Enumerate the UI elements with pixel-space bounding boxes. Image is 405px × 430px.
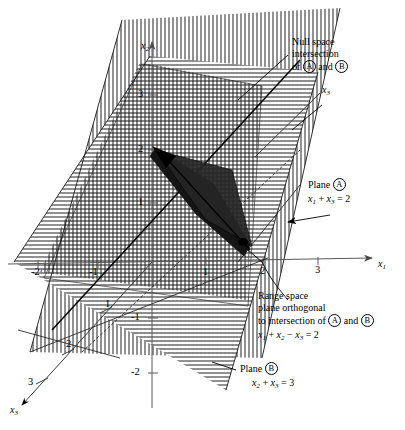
tick-x3-3: 3 bbox=[28, 376, 33, 387]
annotation-null-space: Null space intersection of A and B bbox=[292, 36, 348, 73]
figure-canvas: x2 x1 x3 x3 -2 -1 1 2 3 3 2 1 -1 -2 1 2 … bbox=[0, 0, 405, 430]
tick-x1-3: 3 bbox=[315, 264, 320, 275]
circled-label-a: A bbox=[303, 60, 316, 73]
axis-label-x2: x2 bbox=[141, 40, 149, 53]
tick-x1-neg2: -2 bbox=[31, 266, 40, 277]
tick-x1-2: 2 bbox=[260, 265, 265, 276]
annotation-plane-a: Plane A x1 + x3 = 2 bbox=[308, 178, 350, 206]
circled-label-a: A bbox=[328, 314, 341, 327]
circled-label-a: A bbox=[333, 178, 346, 191]
circled-label-b: B bbox=[361, 314, 374, 327]
tick-x3-1: 1 bbox=[105, 298, 110, 309]
tick-x2-neg1: -1 bbox=[131, 311, 140, 322]
tick-x2-3: 3 bbox=[138, 88, 143, 99]
axis-label-x1: x1 bbox=[378, 258, 386, 271]
tick-x3-2: 2 bbox=[66, 338, 71, 349]
circled-label-b: B bbox=[265, 362, 278, 375]
annotation-range-space: Range space plane orthogonal to intersec… bbox=[258, 290, 374, 342]
axis-label-x3: x3 bbox=[10, 404, 18, 417]
axis-label-x3-negative: x3 bbox=[322, 84, 330, 97]
tick-x2-neg2: -2 bbox=[131, 366, 140, 377]
circled-label-b: B bbox=[335, 60, 348, 73]
tick-x2-1: 1 bbox=[138, 196, 143, 207]
tick-x1-neg1: -1 bbox=[89, 266, 98, 277]
annotation-plane-b: Plane B x2 + x3 = 3 bbox=[240, 362, 294, 390]
tick-x1-1: 1 bbox=[203, 266, 208, 277]
tick-x2-2: 2 bbox=[138, 143, 143, 154]
